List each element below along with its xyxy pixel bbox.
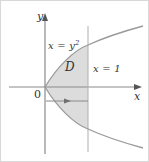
math-figure-canvas: y x 0 x = y2 x = 1 D — [0, 0, 149, 162]
curve-equation-exponent: 2 — [75, 39, 80, 47]
origin-label: 0 — [34, 89, 41, 100]
x-axis-label: x — [134, 91, 140, 102]
graph-svg — [1, 1, 149, 162]
y-axis-label: y — [37, 11, 43, 22]
region-label-d: D — [65, 61, 75, 73]
vertical-line-equation-label: x = 1 — [93, 64, 121, 74]
curve-equation-label: x = y2 — [48, 40, 80, 51]
curve-equation-base: x = y — [48, 40, 75, 51]
